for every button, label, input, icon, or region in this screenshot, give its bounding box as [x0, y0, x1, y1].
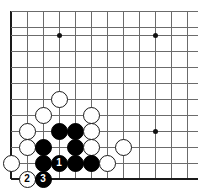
- stone-white[interactable]: [51, 91, 68, 108]
- grid-line-horizontal-5: [11, 83, 198, 84]
- go-board-diagram: 123: [0, 0, 198, 195]
- stone-white-move-2[interactable]: 2: [19, 171, 36, 188]
- stone-white[interactable]: [35, 107, 52, 124]
- stone-white[interactable]: [83, 107, 100, 124]
- stone-white[interactable]: [115, 139, 132, 156]
- stone-white[interactable]: [19, 123, 36, 140]
- stone-black[interactable]: [51, 123, 68, 140]
- star-point-2: [153, 129, 158, 134]
- grid-line-vertical-6: [107, 11, 108, 179]
- stone-white[interactable]: [83, 123, 100, 140]
- stone-black[interactable]: [67, 139, 84, 156]
- grid-line-horizontal-2: [11, 35, 198, 36]
- stone-move-number: 2: [24, 174, 30, 184]
- stone-white[interactable]: [83, 139, 100, 156]
- grid-line-horizontal-3: [11, 51, 198, 52]
- board-surface[interactable]: 123: [0, 0, 198, 195]
- star-point-0: [57, 33, 62, 38]
- grid-line-vertical-10: [171, 11, 172, 179]
- stone-move-number: 3: [40, 174, 46, 184]
- star-point-1: [153, 33, 158, 38]
- grid-line-vertical-0: [10, 11, 12, 179]
- stone-black[interactable]: [67, 123, 84, 140]
- grid-line-horizontal-0: [11, 11, 198, 12]
- grid-line-vertical-11: [187, 11, 188, 179]
- stone-black-move-3[interactable]: 3: [35, 171, 52, 188]
- grid-line-vertical-8: [139, 11, 140, 179]
- grid-line-horizontal-8: [11, 131, 198, 132]
- stone-white[interactable]: [99, 155, 116, 172]
- stone-black[interactable]: [67, 155, 84, 172]
- stone-white[interactable]: [19, 139, 36, 156]
- grid-line-horizontal-6: [11, 99, 198, 100]
- stone-black-move-1[interactable]: 1: [51, 155, 68, 172]
- stone-move-number: 1: [56, 158, 62, 168]
- stone-black[interactable]: [83, 155, 100, 172]
- stone-black[interactable]: [35, 139, 52, 156]
- grid-line-horizontal-4: [11, 67, 198, 68]
- stone-white[interactable]: [3, 155, 20, 172]
- stone-black[interactable]: [35, 155, 52, 172]
- grid-line-horizontal-1: [11, 27, 198, 28]
